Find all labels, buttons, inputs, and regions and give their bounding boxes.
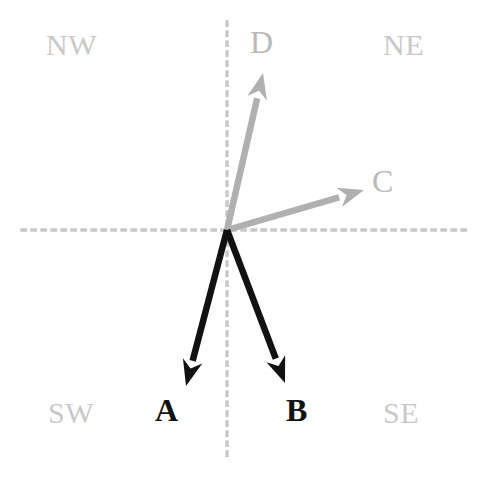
vector-a-shaft bbox=[193, 230, 227, 361]
vector-label-b: B bbox=[286, 392, 307, 429]
vector-label-d: D bbox=[250, 24, 273, 61]
vector-c-shaft bbox=[227, 197, 339, 230]
vector-d-shaft bbox=[227, 98, 257, 230]
quadrant-label-nw: NW bbox=[46, 28, 97, 62]
vector-label-c: C bbox=[372, 163, 393, 200]
vector-arrow-a bbox=[183, 230, 227, 386]
vector-arrow-d bbox=[227, 73, 267, 230]
quadrant-label-sw: SW bbox=[48, 396, 94, 430]
vector-b-shaft bbox=[227, 230, 276, 359]
vector-d-arrowhead bbox=[247, 73, 266, 101]
vector-b-arrowhead bbox=[266, 355, 285, 383]
vector-c-arrowhead bbox=[336, 188, 364, 207]
vector-a-arrowhead bbox=[183, 358, 202, 386]
quadrant-label-ne: NE bbox=[383, 28, 424, 62]
vector-label-a: A bbox=[155, 392, 178, 429]
vector-arrow-b bbox=[227, 230, 285, 383]
vector-diagram-canvas: NW NE SW SE A B C D bbox=[0, 0, 488, 483]
quadrant-label-se: SE bbox=[383, 396, 419, 430]
axis-group bbox=[22, 22, 470, 460]
vector-arrow-c bbox=[227, 188, 364, 230]
